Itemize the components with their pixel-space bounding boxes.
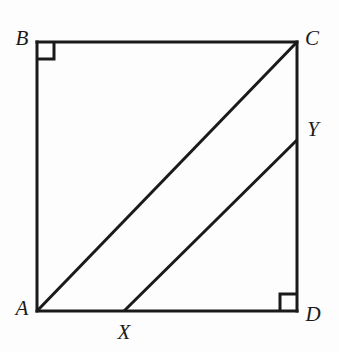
figure-drawing — [0, 0, 339, 352]
vertex-label-a: A — [16, 298, 29, 319]
right-angle-mark-b — [37, 42, 54, 59]
vertex-label-b: B — [16, 28, 29, 49]
right-angle-mark-d — [280, 294, 297, 311]
vertex-label-c: C — [305, 28, 319, 49]
point-label-x: X — [118, 322, 131, 343]
segment-xy — [124, 140, 297, 311]
vertex-label-d: D — [305, 304, 320, 325]
point-label-y: Y — [307, 119, 319, 140]
geometry-figure: B C A D X Y — [0, 0, 339, 352]
